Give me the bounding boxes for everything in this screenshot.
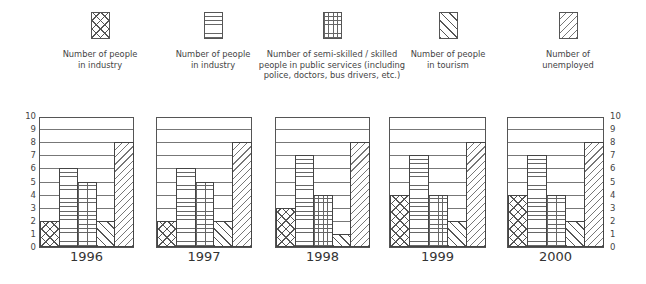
legend-label: police, doctors, bus drivers, etc.) <box>252 70 412 81</box>
axis-tick-label: 3 <box>610 204 615 213</box>
industry-crosshatch-bar <box>508 195 528 247</box>
axis-tick-label: 6 <box>610 164 615 173</box>
industry-lines-bar <box>295 155 315 247</box>
unemployed-bar <box>584 142 604 247</box>
public-services-bar <box>313 195 333 247</box>
legend-label: in industry <box>50 60 150 71</box>
legend-item-tourism: Number of people in tourism <box>398 12 498 70</box>
axis-tick-label: 8 <box>610 138 615 147</box>
panel-1998 <box>275 117 370 248</box>
gridline <box>508 129 603 130</box>
axis-tick-label: 2 <box>31 217 36 226</box>
year-label: 1998 <box>275 249 370 264</box>
legend-label: Number of people <box>163 49 263 60</box>
gridline <box>390 129 485 130</box>
axis-tick-label: 1 <box>31 230 36 239</box>
industry-crosshatch-bar <box>390 195 410 247</box>
legend-label: Number of <box>518 49 618 60</box>
tourism-bar <box>213 221 233 247</box>
legend-label: in industry <box>163 60 263 71</box>
public-services-bar <box>77 182 97 248</box>
axis-tick-label: 7 <box>31 151 36 160</box>
axis-tick-label: 4 <box>31 191 36 200</box>
industry-lines-bar <box>527 155 547 247</box>
industry-crosshatch-bar <box>276 208 296 247</box>
public-services-bar <box>428 195 448 247</box>
unemployed-bar <box>466 142 486 247</box>
axis-tick-label: 10 <box>25 112 36 121</box>
grid-swatch-icon <box>323 12 342 39</box>
legend-item-industry-lines: Number of people in industry <box>163 12 263 70</box>
axis-tick-label: 4 <box>610 191 615 200</box>
tourism-bar <box>96 221 116 247</box>
tourism-bar <box>332 234 352 247</box>
crosshatch-swatch-icon <box>91 12 110 39</box>
industry-lines-bar <box>59 168 79 247</box>
legend-item-unemployed: Number of unemployed <box>518 12 618 70</box>
legend-label: in tourism <box>398 60 498 71</box>
legend-label: unemployed <box>518 60 618 71</box>
year-label: 1997 <box>156 249 252 264</box>
gridline <box>40 129 133 130</box>
tourism-bar <box>447 221 467 247</box>
industry-lines-bar <box>176 168 196 247</box>
axis-tick-label: 5 <box>31 178 36 187</box>
axis-tick-label: 7 <box>610 151 615 160</box>
year-label: 2000 <box>507 249 604 264</box>
diagonal-back-swatch-icon <box>439 12 458 39</box>
unemployed-bar <box>232 142 252 247</box>
horizontal-lines-swatch-icon <box>204 12 223 39</box>
gridline <box>157 129 251 130</box>
axis-tick-label: 0 <box>31 243 36 252</box>
industry-lines-bar <box>409 155 429 247</box>
axis-tick-label: 1 <box>610 230 615 239</box>
industry-crosshatch-bar <box>40 221 60 247</box>
panel-1997 <box>156 117 252 248</box>
unemployed-bar <box>350 142 370 247</box>
diagonal-forward-swatch-icon <box>559 12 578 39</box>
axis-tick-label: 8 <box>31 138 36 147</box>
legend-label: Number of people <box>50 49 150 60</box>
legend-label: people in public services (including <box>252 60 412 71</box>
axis-tick-label: 0 <box>610 243 615 252</box>
public-services-bar <box>195 182 215 248</box>
axis-tick-label: 9 <box>31 125 36 134</box>
unemployed-bar <box>114 142 134 247</box>
axis-tick-label: 6 <box>31 164 36 173</box>
year-label: 1996 <box>39 249 134 264</box>
legend-item-public-services: Number of semi-skilled / skilled people … <box>252 12 412 81</box>
axis-tick-label: 2 <box>610 217 615 226</box>
axis-tick-label: 5 <box>610 178 615 187</box>
tourism-bar <box>565 221 585 247</box>
gridline <box>276 129 369 130</box>
year-label: 1999 <box>389 249 486 264</box>
panel-1999 <box>389 117 486 248</box>
legend-item-industry-crosshatch: Number of people in industry <box>50 12 150 70</box>
axis-tick-label: 10 <box>610 112 621 121</box>
legend-label: Number of semi-skilled / skilled <box>252 49 412 60</box>
axis-tick-label: 3 <box>31 204 36 213</box>
legend-label: Number of people <box>398 49 498 60</box>
industry-crosshatch-bar <box>157 221 177 247</box>
axis-tick-label: 9 <box>610 125 615 134</box>
panel-2000 <box>507 117 604 248</box>
public-services-bar <box>546 195 566 247</box>
panel-1996 <box>39 117 134 248</box>
